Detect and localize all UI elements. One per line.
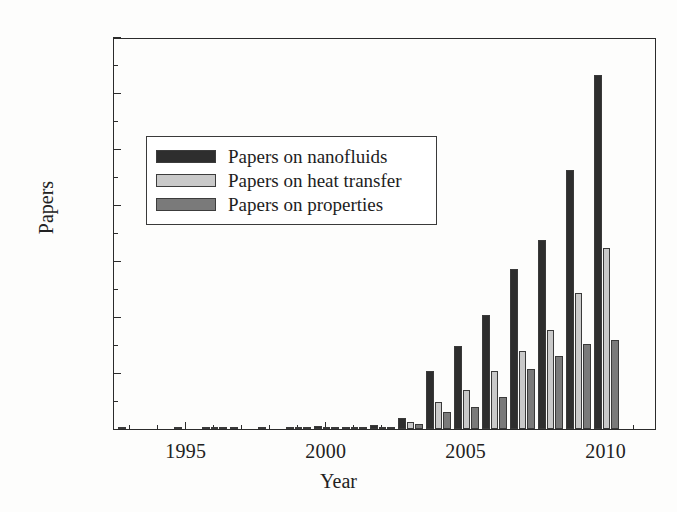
legend-item-nanofluids: Papers on nanofluids: [156, 144, 427, 168]
bar: [370, 425, 378, 429]
bar: [463, 390, 471, 429]
bar: [295, 427, 303, 429]
bar: [379, 427, 387, 429]
bar: [415, 424, 423, 429]
x-tick-label: 2010: [561, 440, 651, 463]
bar: [527, 369, 535, 429]
chart-legend: Papers on nanofluids Papers on heat tran…: [146, 136, 437, 225]
bar: [407, 422, 415, 429]
bar: [566, 170, 574, 429]
bar: [314, 426, 322, 429]
x-tick-label: 2000: [281, 440, 371, 463]
bar: [230, 427, 238, 429]
bar: [323, 427, 331, 429]
y-axis-title: Papers: [35, 148, 58, 268]
bar: [611, 340, 619, 429]
legend-label-properties: Papers on properties: [228, 195, 383, 214]
legend-label-nanofluids: Papers on nanofluids: [228, 147, 387, 166]
bar: [499, 397, 507, 429]
bar: [575, 293, 583, 429]
bar: [519, 351, 527, 429]
bar: [359, 427, 367, 429]
bar: [603, 248, 611, 429]
figure-container: Papers 0100200300400500600700 1995200020…: [0, 0, 677, 512]
bar: [211, 427, 219, 429]
bar: [351, 427, 359, 429]
legend-label-heat-transfer: Papers on heat transfer: [228, 171, 402, 190]
bar: [454, 346, 462, 429]
plot-area: [113, 38, 656, 430]
bar: [443, 412, 451, 429]
legend-swatch-properties: [156, 198, 216, 211]
bar: [303, 427, 311, 429]
bar: [398, 418, 406, 429]
bar: [538, 240, 546, 429]
bar: [482, 315, 490, 429]
legend-item-heat-transfer: Papers on heat transfer: [156, 168, 427, 192]
bar: [174, 427, 182, 429]
bar: [331, 427, 339, 429]
bar: [286, 427, 294, 429]
bar: [594, 75, 602, 429]
bar: [258, 427, 266, 429]
x-tick-label: 1995: [141, 440, 231, 463]
bar: [118, 427, 126, 429]
bars-layer: [114, 39, 655, 429]
bar: [342, 427, 350, 429]
x-tick-label: 2005: [421, 440, 511, 463]
bar: [491, 371, 499, 429]
legend-swatch-nanofluids: [156, 150, 216, 163]
legend-item-properties: Papers on properties: [156, 192, 427, 216]
bar: [426, 371, 434, 429]
bar: [387, 427, 395, 429]
bar: [555, 356, 563, 429]
bar: [471, 407, 479, 429]
x-axis-title: Year: [0, 470, 677, 493]
bar: [510, 269, 518, 429]
bar: [583, 344, 591, 429]
bar: [202, 427, 210, 429]
bar: [435, 402, 443, 429]
legend-swatch-heat-transfer: [156, 174, 216, 187]
bar: [219, 427, 227, 429]
bar: [547, 330, 555, 429]
